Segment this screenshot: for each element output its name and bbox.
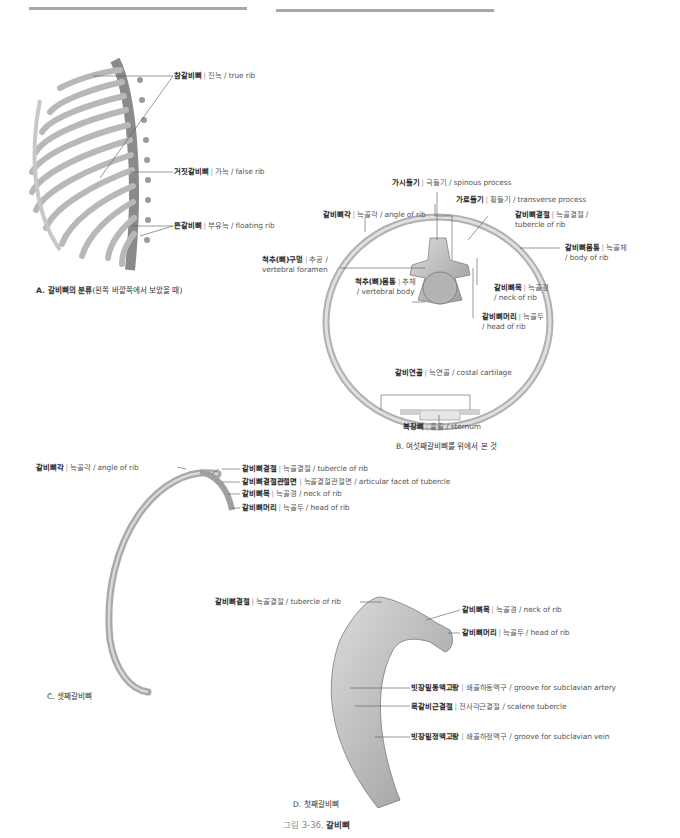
label-tubercle-of-rib-b: 갈비뼈결절|늑골결절 /tubercle of rib: [515, 210, 588, 230]
label-groove-subclavian-vein: 빗장밑정맥고랑|쇄골하정맥구 / groove for subclavian v…: [411, 732, 609, 742]
caption-panel-c: C. 셋째갈비뼈: [47, 690, 92, 701]
figure-caption: 그림 3-36. 갈비뼈: [283, 818, 350, 830]
label-neck-of-rib-c: 갈비뼈목|늑골경 / neck of rib: [242, 489, 342, 499]
label-scalene-tubercle: 목갈비근결절|전사각근결절 / scalene tubercle: [411, 702, 566, 712]
label-tubercle-of-rib-d: 갈비뼈결절|늑골결절 / tubercle of rib: [215, 597, 341, 607]
label-sternum: 복장뼈|흉골 / sternum: [403, 422, 481, 432]
label-head-of-rib-d: 갈비뼈머리|늑골두 / head of rib: [462, 628, 569, 638]
label-tubercle-of-rib-c: 갈비뼈결절|늑골결절 / tubercle of rib: [242, 464, 368, 474]
label-angle-of-rib-b: 갈비뼈각|늑골각 / angle of rib: [323, 210, 426, 220]
label-angle-of-rib-c: 갈비뼈각|늑골각 / angle of rib: [36, 463, 139, 473]
label-spinous-process: 가시돌기|극돌기 / spinous process: [392, 178, 511, 188]
label-head-of-rib-c: 갈비뼈머리|늑골두 / head of rib: [242, 503, 349, 513]
label-costal-cartilage: 갈비연골|늑연골 / costal cartilage: [395, 368, 512, 378]
caption-panel-a: A. 갈비뼈의 분류(왼쪽 바깥쪽에서 보았을 때): [36, 284, 182, 295]
label-body-of-rib: 갈비뼈몸통|늑골체/ body of rib: [565, 243, 627, 263]
caption-panel-b: B. 여섯째갈비뼈를 위에서 본 것: [396, 440, 497, 451]
label-true-rib: 참갈비뼈|진늑 / true rib: [174, 71, 255, 81]
rib-cage-illustration: [32, 60, 173, 270]
label-articular-facet: 갈비뼈결절관절면|늑골결절관절면 / articular facet of tu…: [242, 477, 450, 487]
label-transverse-process: 가로돌기|횡돌기 / transverse process: [456, 195, 586, 205]
label-false-rib: 거짓갈비뼈|가늑 / false rib: [174, 167, 264, 177]
label-vertebral-body: 척추(뼈)몸통|추체/ vertebral body: [355, 277, 416, 297]
label-floating-rib: 뜬갈비뼈|부유늑 / floating rib: [174, 221, 275, 231]
third-rib-illustration: [109, 467, 240, 692]
label-groove-subclavian-artery: 빗장밑동맥고랑|쇄골하동맥구 / groove for subclavian a…: [411, 683, 616, 693]
label-vertebral-foramen: 척추(뼈)구멍|추공 /vertebral foramen: [262, 255, 328, 275]
caption-panel-d: D. 첫째갈비뼈: [293, 798, 339, 809]
label-neck-of-rib-b: 갈비뼈목|늑골경/ neck of rib: [494, 283, 549, 303]
label-neck-of-rib-d: 갈비뼈목|늑골경 / neck of rib: [462, 605, 562, 615]
label-head-of-rib-b: 갈비뼈머리|늑골두/ head of rib: [482, 312, 544, 332]
illustrations: [0, 0, 680, 838]
